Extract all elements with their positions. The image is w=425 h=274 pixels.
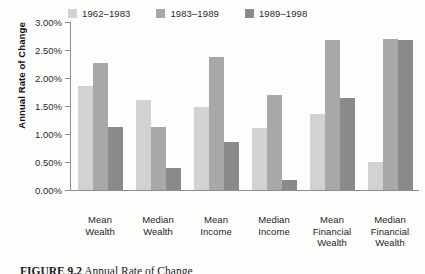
y-axis-tick: 0.50% bbox=[35, 156, 70, 168]
y-axis-tick: 2.00% bbox=[35, 72, 70, 84]
legend-swatch-icon bbox=[245, 9, 254, 18]
figure-caption-text: Annual Rate of Change bbox=[84, 265, 192, 274]
x-axis-category-label: MeanWealth bbox=[71, 214, 129, 249]
y-axis-tick-label: 1.00% bbox=[35, 129, 62, 140]
bar-group bbox=[187, 22, 245, 190]
y-axis-tick-label: 0.00% bbox=[35, 185, 62, 196]
figure-caption: FIGURE 9.2 Annual Rate of Change bbox=[20, 265, 420, 274]
bar-group bbox=[361, 22, 419, 190]
figure-caption-label: FIGURE 9.2 bbox=[20, 265, 82, 274]
bar bbox=[166, 168, 181, 190]
y-axis-tick: 1.50% bbox=[35, 100, 70, 112]
x-axis-category-label: MeanIncome bbox=[187, 214, 245, 249]
y-axis-tick-label: 2.00% bbox=[35, 73, 62, 84]
x-axis-category-line: Wealth bbox=[129, 226, 187, 238]
y-axis-tick-label: 3.00% bbox=[35, 17, 62, 28]
x-axis-category-line: Median bbox=[129, 214, 187, 226]
x-axis-category-label: MedianWealth bbox=[129, 214, 187, 249]
bar bbox=[383, 39, 398, 190]
x-axis-category-line: Income bbox=[187, 226, 245, 238]
bar-group bbox=[303, 22, 361, 190]
bar-group bbox=[245, 22, 303, 190]
legend-label: 1989–1998 bbox=[259, 8, 307, 19]
x-axis-category-line: Income bbox=[245, 226, 303, 238]
x-axis-category-line: Mean bbox=[187, 214, 245, 226]
bar bbox=[194, 107, 209, 190]
bar bbox=[78, 86, 93, 190]
bar bbox=[252, 128, 267, 190]
x-axis-category-label: MedianFinancialWealth bbox=[361, 214, 419, 249]
bar bbox=[136, 100, 151, 190]
y-axis-ticks: 3.00%2.50%2.00%1.50%1.00%0.50%0.00% bbox=[8, 22, 70, 190]
bar bbox=[310, 114, 325, 190]
y-axis-tick-label: 2.50% bbox=[35, 45, 62, 56]
bar-group bbox=[129, 22, 187, 190]
bar bbox=[340, 98, 355, 190]
plot-area: Annual Rate of Change 3.00%2.50%2.00%1.5… bbox=[0, 22, 425, 212]
chart-legend: 1962–19831983–19891989–1998 bbox=[68, 5, 368, 21]
x-axis-category-line: Wealth bbox=[71, 226, 129, 238]
bar-groups bbox=[71, 22, 419, 190]
x-axis-category-labels: MeanWealthMedianWealthMeanIncomeMedianIn… bbox=[71, 214, 419, 249]
y-axis-tick: 0.00% bbox=[35, 184, 70, 196]
x-axis-category-line: Median bbox=[361, 214, 419, 226]
bar bbox=[108, 127, 123, 190]
y-axis-tick-label: 0.50% bbox=[35, 157, 62, 168]
bar-group bbox=[71, 22, 129, 190]
legend-item: 1983–1989 bbox=[156, 8, 218, 19]
y-axis-tick: 1.00% bbox=[35, 128, 70, 140]
bar bbox=[224, 142, 239, 190]
bar bbox=[267, 95, 282, 190]
x-axis-category-line: Mean bbox=[303, 214, 361, 226]
bar bbox=[282, 180, 297, 190]
x-axis-category-line: Wealth bbox=[361, 237, 419, 249]
legend-label: 1962–1983 bbox=[82, 8, 130, 19]
x-axis-category-label: MedianIncome bbox=[245, 214, 303, 249]
bar bbox=[93, 63, 108, 190]
x-axis-category-line: Financial bbox=[361, 226, 419, 238]
x-axis-category-line: Wealth bbox=[303, 237, 361, 249]
x-axis-category-line: Mean bbox=[71, 214, 129, 226]
x-axis-line bbox=[70, 190, 419, 191]
bar bbox=[398, 40, 413, 190]
bar bbox=[325, 40, 340, 190]
bar bbox=[368, 162, 383, 190]
legend-label: 1983–1989 bbox=[170, 8, 218, 19]
legend-item: 1962–1983 bbox=[68, 8, 130, 19]
bar bbox=[209, 57, 224, 190]
y-axis-tick: 2.50% bbox=[35, 44, 70, 56]
legend-item: 1989–1998 bbox=[245, 8, 307, 19]
x-axis-category-label: MeanFinancialWealth bbox=[303, 214, 361, 249]
x-axis-category-line: Median bbox=[245, 214, 303, 226]
figure-bar-chart: 1962–19831983–19891989–1998 Annual Rate … bbox=[0, 0, 425, 274]
x-axis-category-line: Financial bbox=[303, 226, 361, 238]
legend-swatch-icon bbox=[156, 9, 165, 18]
y-axis-tick-label: 1.50% bbox=[35, 101, 62, 112]
bar bbox=[151, 127, 166, 190]
y-axis-tick: 3.00% bbox=[35, 16, 70, 28]
